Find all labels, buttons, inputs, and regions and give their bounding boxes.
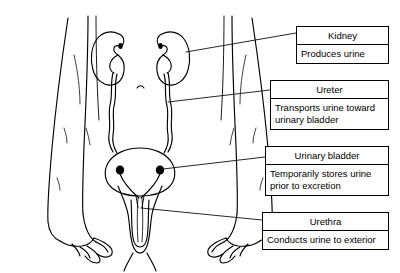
kidney-left-shape	[157, 32, 190, 85]
callout-urethra-desc: Conducts urine to exterior	[263, 231, 388, 249]
callout-urethra-title: Urethra	[263, 213, 388, 231]
callout-urinary-bladder-title: Urinary bladder	[266, 147, 388, 165]
vertebra-mark	[137, 86, 144, 88]
callout-kidney-desc: Produces urine	[297, 45, 388, 63]
leader-line-urethra	[141, 208, 262, 220]
callout-kidney-title: Kidney	[297, 27, 388, 45]
leader-line-ureter	[168, 90, 270, 102]
callout-kidney[interactable]: Kidney Produces urine	[296, 26, 389, 64]
bladder-shape	[105, 148, 175, 198]
callout-ureter-desc: Transports urine toward urinary bladder	[271, 99, 388, 129]
diagram-canvas: Kidney Produces urine Ureter Transports …	[0, 0, 400, 273]
callout-ureter[interactable]: Ureter Transports urine toward urinary b…	[270, 80, 389, 130]
leader-line-bladder	[163, 157, 265, 169]
callout-urinary-bladder[interactable]: Urinary bladder Temporarily stores urine…	[265, 146, 389, 196]
left-arm-outline	[48, 16, 113, 263]
callout-urinary-bladder-desc: Temporarily stores urine prior to excret…	[266, 165, 388, 195]
callout-ureter-title: Ureter	[271, 81, 388, 99]
urethra-shape	[118, 186, 162, 271]
leader-line-kidney	[186, 33, 296, 52]
callout-urethra[interactable]: Urethra Conducts urine to exterior	[262, 212, 389, 250]
torso-outline	[96, 16, 224, 120]
